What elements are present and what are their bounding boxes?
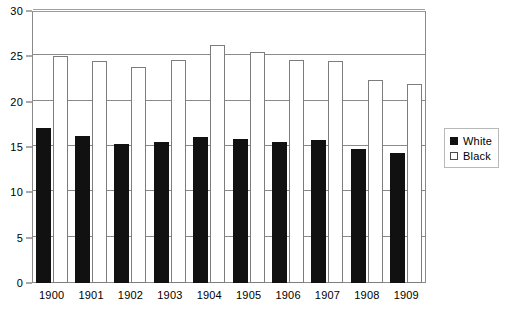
bar-white-1909[interactable] (390, 153, 405, 283)
bar-black-1903[interactable] (171, 60, 186, 283)
y-tick-label: 25 (10, 50, 23, 62)
y-axis: 051015202530 (0, 0, 32, 283)
x-tick-label: 1907 (315, 289, 340, 301)
x-tick-label: 1909 (394, 289, 419, 301)
legend-item-label: Black (463, 150, 491, 162)
bar-white-1902[interactable] (114, 144, 129, 283)
bar-black-1904[interactable] (210, 45, 225, 283)
bar-white-1906[interactable] (272, 142, 287, 283)
legend-item[interactable]: White (450, 133, 492, 148)
bar-group (190, 11, 229, 283)
x-tick-label: 1904 (197, 289, 222, 301)
bar-black-1905[interactable] (250, 52, 265, 283)
legend-item-label: White (463, 135, 492, 147)
bar-group (111, 11, 150, 283)
bar-white-1907[interactable] (311, 140, 326, 283)
bar-white-1905[interactable] (233, 139, 248, 283)
y-tick-label: 20 (10, 96, 23, 108)
bar-white-1900[interactable] (36, 128, 51, 283)
y-tick-label: 30 (10, 5, 23, 17)
bar-black-1908[interactable] (368, 80, 383, 283)
legend-item[interactable]: Black (450, 148, 492, 163)
bar-chart: 051015202530 190019011902190319041905190… (0, 0, 509, 311)
y-tick-label: 5 (17, 232, 23, 244)
gridline (33, 9, 425, 10)
bar-black-1901[interactable] (92, 61, 107, 283)
bar-group (268, 11, 307, 283)
x-tick-label: 1900 (39, 289, 64, 301)
bar-group (71, 11, 110, 283)
y-tick-label: 0 (17, 277, 23, 289)
bar-group (308, 11, 347, 283)
x-tick-label: 1902 (118, 289, 143, 301)
x-tick-label: 1905 (236, 289, 261, 301)
bar-group (347, 11, 386, 283)
y-tick-label: 10 (10, 186, 23, 198)
bar-white-1901[interactable] (75, 136, 90, 283)
x-tick-label: 1901 (78, 289, 103, 301)
x-tick-label: 1906 (275, 289, 300, 301)
bar-group (387, 11, 426, 283)
bar-group (150, 11, 189, 283)
x-axis: 1900190119021903190419051906190719081909 (32, 286, 426, 308)
bar-white-1908[interactable] (351, 149, 366, 283)
bar-group (229, 11, 268, 283)
bar-white-1904[interactable] (193, 137, 208, 283)
bar-black-1902[interactable] (131, 67, 146, 283)
bars-layer (32, 11, 426, 283)
x-tick-label: 1908 (354, 289, 379, 301)
x-tick-label: 1903 (157, 289, 182, 301)
hollow-square-icon (450, 152, 458, 160)
bar-black-1906[interactable] (289, 60, 304, 283)
chart-legend: White Black (444, 128, 499, 168)
bar-group (32, 11, 71, 283)
bar-black-1909[interactable] (407, 84, 422, 283)
y-tick-label: 15 (10, 141, 23, 153)
bar-black-1900[interactable] (53, 56, 68, 283)
bar-white-1903[interactable] (154, 142, 169, 283)
bar-black-1907[interactable] (328, 61, 343, 283)
filled-square-icon (450, 137, 458, 145)
